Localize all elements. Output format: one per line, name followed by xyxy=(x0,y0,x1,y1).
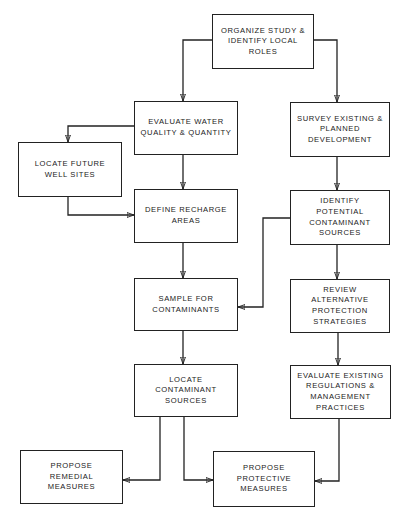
arrow-identify_sources-to-sample xyxy=(238,218,290,307)
node-locate-future-well-sites: LOCATE FUTURE WELL SITES xyxy=(18,142,122,197)
arrow-locate_sources-to-remedial xyxy=(123,417,160,480)
arrow-locate_sources-to-protective xyxy=(184,417,213,480)
node-label: SURVEY EXISTING & PLANNED DEVELOPMENT xyxy=(297,114,383,146)
node-label: DEFINE RECHARGE AREAS xyxy=(145,205,227,226)
node-propose-remedial-measures: PROPOSE REMEDIAL MEASURES xyxy=(20,450,123,504)
node-survey-development: SURVEY EXISTING & PLANNED DEVELOPMENT xyxy=(290,102,390,157)
node-label: EVALUATE WATER QUALITY & QUANTITY xyxy=(141,117,232,138)
node-label: PROPOSE PROTECTIVE MEASURES xyxy=(237,463,292,495)
node-label: IDENTIFY POTENTIAL CONTAMINANT SOURCES xyxy=(309,196,371,238)
node-label: SAMPLE FOR CONTAMINANTS xyxy=(152,294,219,315)
node-organize-study: ORGANIZE STUDY & IDENTIFY LOCAL ROLES xyxy=(212,14,314,69)
node-propose-protective-measures: PROPOSE PROTECTIVE MEASURES xyxy=(213,451,315,507)
flowchart-canvas: ORGANIZE STUDY & IDENTIFY LOCAL ROLES EV… xyxy=(0,0,406,521)
arrow-organize-to-survey xyxy=(314,40,337,102)
arrow-evaluate_water-to-locate_well xyxy=(68,126,134,142)
node-label: LOCATE FUTURE WELL SITES xyxy=(35,159,106,180)
arrow-evaluate_regs-to-protective xyxy=(315,419,339,481)
node-label: EVALUATE EXISTING REGULATIONS & MANAGEME… xyxy=(297,371,383,413)
node-label: LOCATE CONTAMINANT SOURCES xyxy=(155,375,217,407)
node-label: REVIEW ALTERNATIVE PROTECTION STRATEGIES xyxy=(311,285,368,327)
node-locate-contaminant-sources: LOCATE CONTAMINANT SOURCES xyxy=(134,364,238,417)
node-label: ORGANIZE STUDY & IDENTIFY LOCAL ROLES xyxy=(221,26,305,58)
node-define-recharge-areas: DEFINE RECHARGE AREAS xyxy=(134,189,238,243)
node-review-protection-strategies: REVIEW ALTERNATIVE PROTECTION STRATEGIES xyxy=(290,279,390,333)
arrow-organize-to-evaluate_water xyxy=(183,40,212,101)
connector-layer xyxy=(0,0,406,521)
node-sample-for-contaminants: SAMPLE FOR CONTAMINANTS xyxy=(134,278,238,331)
arrow-locate_well-to-define_recharge xyxy=(68,197,134,215)
node-identify-contaminant-sources: IDENTIFY POTENTIAL CONTAMINANT SOURCES xyxy=(290,190,390,245)
node-evaluate-water-quality: EVALUATE WATER QUALITY & QUANTITY xyxy=(134,101,238,155)
node-evaluate-regulations: EVALUATE EXISTING REGULATIONS & MANAGEME… xyxy=(290,365,391,419)
node-label: PROPOSE REMEDIAL MEASURES xyxy=(48,461,95,493)
